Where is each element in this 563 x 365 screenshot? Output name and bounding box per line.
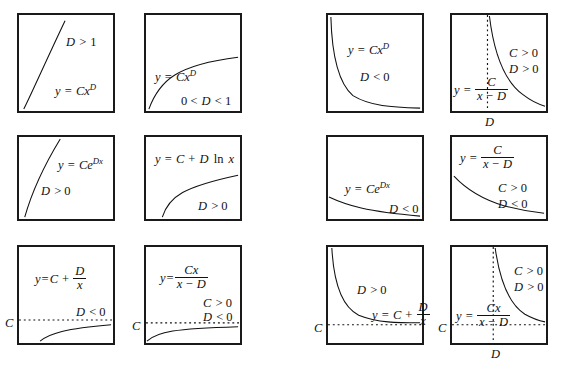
- panel-5-curve: [19, 137, 113, 219]
- panel-5-equation: y = CeDx: [58, 159, 103, 172]
- panel-12: C > 0 D > 0 y = Cxx − D C D: [450, 245, 548, 345]
- panel-12-equation: y = Cxx − D: [456, 303, 510, 330]
- panel-12-axis-label-C: C: [438, 322, 446, 335]
- panel-9-condition: D < 0: [76, 306, 106, 319]
- panel-9: y=C + Dx D < 0 C: [17, 245, 115, 345]
- panel-12-condition-line-2: D > 0: [514, 281, 544, 294]
- panel-7-equation: y = CeDx: [345, 183, 390, 196]
- panel-5: y = CeDx D > 0: [17, 135, 115, 221]
- panel-3-curve: [328, 15, 422, 111]
- panel-1-equation: y = CxD: [55, 85, 96, 98]
- panel-9-curve: [19, 247, 113, 343]
- panel-10-condition-line-1: C > 0: [203, 297, 232, 310]
- panel-7-condition: D < 0: [389, 203, 419, 216]
- panel-6: y = C + D ln x D > 0: [144, 135, 242, 221]
- panel-1-condition: D > 1: [66, 36, 97, 49]
- panel-9-equation: y=C + Dx: [35, 266, 86, 293]
- panel-2: y = CxD 0 < D < 1: [144, 13, 242, 113]
- panel-6-equation: y = C + D ln x: [155, 153, 234, 166]
- panel-2-equation: y = CxD: [155, 71, 196, 84]
- panel-10-condition-line-2: D < 0: [203, 311, 233, 324]
- panel-11-condition: D > 0: [357, 284, 387, 297]
- panel-10-equation: y= Cxx − D: [160, 265, 208, 292]
- panel-4-condition-line-2: D > 0: [509, 63, 539, 76]
- panel-8-equation: y = Cx − D: [460, 145, 514, 172]
- panel-4-condition-line-1: C > 0: [509, 47, 538, 60]
- panel-3: y = CxD D < 0: [326, 13, 424, 113]
- panel-8-condition-line-2: D < 0: [498, 198, 528, 211]
- panel-8: y = Cx − D C > 0 D < 0: [450, 135, 548, 221]
- panel-6-condition: D > 0: [198, 200, 228, 213]
- panel-2-condition: 0 < D < 1: [181, 95, 231, 108]
- panel-8-condition-line-1: C > 0: [498, 182, 527, 195]
- panel-11-equation: y = C + Dx: [372, 302, 430, 329]
- panel-9-axis-label-C: C: [5, 317, 13, 330]
- panel-3-condition: D < 0: [360, 71, 390, 84]
- panel-12-axis-label-D: D: [491, 348, 500, 361]
- panel-7: y = CeDx D < 0: [326, 135, 424, 221]
- panel-1: D > 1 y = CxD: [17, 13, 115, 113]
- figure-sheet: D > 1 y = CxD y = CxD 0 < D < 1 y = CxD …: [0, 0, 563, 365]
- panel-12-condition-line-1: C > 0: [514, 265, 543, 278]
- panel-11: D > 0 y = C + Dx C: [326, 245, 424, 345]
- panel-4-axis-label-D: D: [485, 116, 494, 129]
- panel-10-curve: [146, 247, 240, 343]
- panel-11-axis-label-C: C: [314, 322, 322, 335]
- panel-10-axis-label-C: C: [132, 320, 140, 333]
- panel-10: y= Cxx − D C > 0 D < 0 C: [144, 245, 242, 345]
- panel-5-condition: D > 0: [41, 185, 71, 198]
- panel-4: C > 0 D > 0 y = Cx − D D: [450, 13, 548, 113]
- panel-3-equation: y = CxD: [348, 44, 389, 57]
- panel-4-equation: y = Cx − D: [454, 77, 508, 104]
